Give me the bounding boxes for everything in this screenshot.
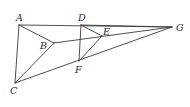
segment-DF (79, 25, 81, 61)
segment-AB (19, 25, 54, 43)
segment-BC (15, 43, 54, 83)
label-point-E: E (102, 26, 110, 37)
label-point-A: A (15, 12, 23, 23)
segment-DE (81, 25, 102, 36)
segments (15, 25, 172, 83)
label-point-C: C (10, 85, 18, 96)
label-point-F: F (74, 64, 82, 75)
label-point-B: B (39, 40, 47, 51)
label-point-D: D (77, 12, 86, 23)
label-point-G: G (176, 22, 184, 33)
segment-BG (54, 27, 172, 43)
segment-AC (15, 25, 19, 83)
geometry-diagram: A B C D E F G (0, 0, 190, 107)
segment-EF (79, 36, 102, 61)
